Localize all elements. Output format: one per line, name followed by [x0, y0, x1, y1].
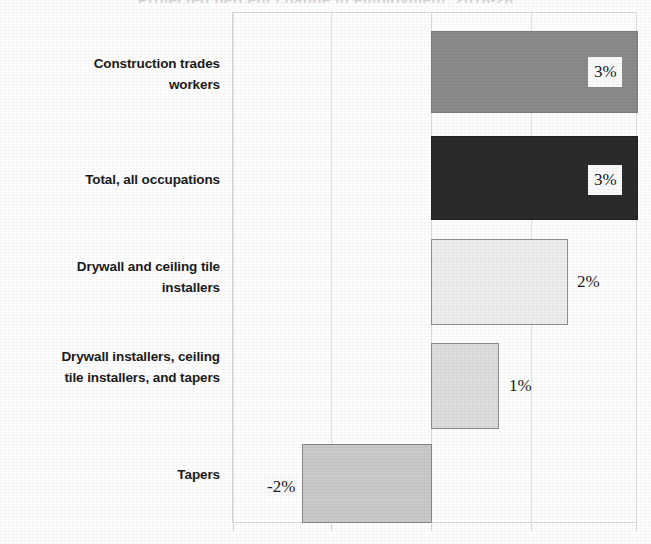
category-label-total-all-occupations: Total, all occupations — [0, 170, 226, 191]
category-label-drywall-and-ceiling-tile-installers: Drywall and ceiling tile installers — [0, 257, 226, 299]
category-label-line: Drywall and ceiling tile — [0, 257, 220, 278]
category-label-line: workers — [0, 75, 220, 96]
value-label-total-all-occupations: 3% — [588, 165, 622, 195]
category-label-drywall-installers-ceiling-tile-installers-and-tapers: Drywall installers, ceiling tile install… — [0, 347, 226, 389]
category-label-line: installers — [0, 278, 220, 299]
category-axis: Construction trades workers Total, all o… — [0, 12, 226, 523]
category-label-tapers: Tapers — [0, 465, 226, 486]
bar-chart: Projected percent change in employment, … — [0, 0, 651, 544]
gridline-x-minus2 — [233, 13, 234, 522]
bar-drywall-installers-ceiling-tile-installers-and-tapers — [431, 343, 499, 429]
category-label-line: Construction trades — [0, 54, 220, 75]
axis-tick-minus2 — [233, 524, 234, 531]
plot-area: 3% 3% 2% 1% -2% — [232, 12, 637, 523]
value-label-drywall-installers-ceiling-tile-installers-and-tapers: 1% — [509, 377, 532, 394]
category-label-line: Drywall installers, ceiling — [0, 347, 220, 368]
axis-tick-2 — [636, 524, 637, 531]
value-label-drywall-and-ceiling-tile-installers: 2% — [577, 273, 600, 290]
category-label-line: Total, all occupations — [0, 170, 220, 191]
value-label-construction-trades-workers: 3% — [588, 57, 622, 87]
bar-tapers — [302, 444, 432, 523]
value-label-tapers: -2% — [264, 476, 298, 497]
axis-tick-1 — [531, 524, 532, 531]
category-label-construction-trades-workers: Construction trades workers — [0, 54, 226, 96]
axis-tick-minus1 — [331, 524, 332, 531]
category-label-line: tile installers, and tapers — [0, 368, 220, 389]
bar-drywall-and-ceiling-tile-installers — [431, 239, 568, 325]
axis-tick-zero — [431, 524, 432, 531]
category-label-line: Tapers — [0, 465, 220, 486]
chart-title: Projected percent change in employment, … — [0, 0, 651, 3]
